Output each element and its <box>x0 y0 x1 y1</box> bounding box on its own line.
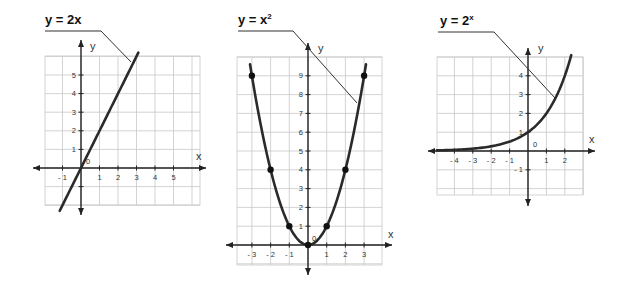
graph-quadratic: - 3- 2- 1123123456789 y = x2 y x 0 <box>226 12 394 275</box>
svg-text:- 2: - 2 <box>266 250 275 259</box>
axes <box>33 40 206 215</box>
graph-linear: - 11234512345 y = 2x y x 0 <box>33 12 206 215</box>
grid <box>437 57 583 195</box>
svg-text:3: 3 <box>519 90 523 99</box>
origin-label: 0 <box>533 140 537 149</box>
svg-text:- 1: - 1 <box>285 250 294 259</box>
grid <box>45 56 200 205</box>
svg-text:9: 9 <box>299 71 303 80</box>
function-graphs-figure: - 11234512345 y = 2x y x 0 - 3- 2- 11231… <box>0 0 619 286</box>
x-axis-label: x <box>388 228 394 240</box>
ticks: - 4- 3- 2- 112- 11234 <box>450 71 567 174</box>
axes <box>428 48 595 206</box>
svg-text:- 4: - 4 <box>450 156 459 165</box>
grid <box>237 57 382 265</box>
x-axis-label: x <box>196 150 202 162</box>
data-point <box>305 242 311 248</box>
svg-text:7: 7 <box>299 109 303 118</box>
data-point <box>286 223 292 229</box>
svg-text:3: 3 <box>362 250 366 259</box>
svg-text:2: 2 <box>116 173 120 182</box>
graph-title: y = 2x <box>440 13 474 28</box>
svg-text:2: 2 <box>343 250 347 259</box>
ticks: - 11234512345 <box>58 71 175 187</box>
svg-text:4: 4 <box>72 89 76 98</box>
data-point <box>267 167 273 173</box>
svg-text:- 3: - 3 <box>248 250 257 259</box>
graph-title: y = x2 <box>238 12 272 27</box>
svg-text:5: 5 <box>299 147 303 156</box>
y-axis-label: y <box>538 42 544 54</box>
svg-text:- 2: - 2 <box>487 156 496 165</box>
curve-y-equals-2-to-x <box>437 55 571 150</box>
svg-text:5: 5 <box>171 173 175 182</box>
svg-text:- 1: - 1 <box>514 165 523 174</box>
data-point <box>342 167 348 173</box>
svg-text:2: 2 <box>519 109 523 118</box>
data-point <box>324 223 330 229</box>
svg-text:1: 1 <box>72 145 76 154</box>
svg-text:8: 8 <box>299 90 303 99</box>
x-axis-label: x <box>589 133 595 145</box>
svg-text:- 1: - 1 <box>58 173 67 182</box>
graph-title: y = 2x <box>45 12 82 27</box>
svg-text:1: 1 <box>299 222 303 231</box>
ticks: - 3- 2- 1123123456789 <box>248 71 367 259</box>
svg-text:1: 1 <box>97 173 101 182</box>
svg-text:3: 3 <box>299 184 303 193</box>
svg-text:5: 5 <box>72 71 76 80</box>
svg-text:4: 4 <box>153 173 157 182</box>
origin-label: 0 <box>312 234 316 243</box>
svg-text:1: 1 <box>544 156 548 165</box>
svg-text:4: 4 <box>519 71 523 80</box>
data-point <box>361 73 367 79</box>
data-point <box>249 73 255 79</box>
svg-text:6: 6 <box>299 128 303 137</box>
svg-text:4: 4 <box>299 165 303 174</box>
svg-text:3: 3 <box>134 173 138 182</box>
y-axis-label: y <box>318 42 324 54</box>
svg-text:2: 2 <box>563 156 567 165</box>
svg-text:- 1: - 1 <box>505 156 514 165</box>
y-axis-label: y <box>90 40 96 52</box>
graph-exponential: - 4- 3- 2- 112- 11234 y = 2x y x 0 <box>428 13 595 206</box>
svg-text:1: 1 <box>325 250 329 259</box>
svg-text:2: 2 <box>299 203 303 212</box>
svg-text:- 3: - 3 <box>468 156 477 165</box>
origin-label: 0 <box>86 157 90 166</box>
svg-text:2: 2 <box>72 126 76 135</box>
svg-text:3: 3 <box>72 108 76 117</box>
